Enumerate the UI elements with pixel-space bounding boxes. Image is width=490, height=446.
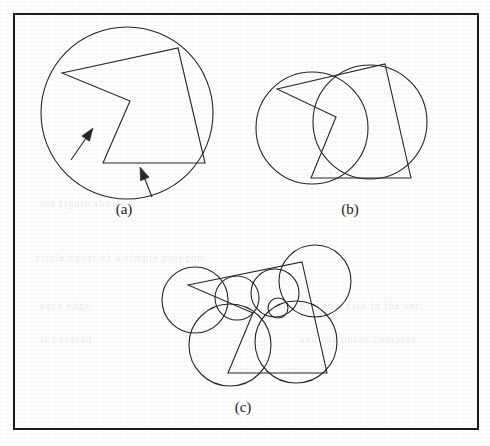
figure-container: (a)(b)(c) the figure showscircle cover o… xyxy=(0,0,490,446)
figure-canvas: (a)(b)(c) xyxy=(0,0,490,446)
paper-background xyxy=(0,0,490,446)
panel-label-a: (a) xyxy=(116,201,133,218)
panel-label-c: (c) xyxy=(235,399,252,416)
panel-label-b: (b) xyxy=(341,201,359,218)
